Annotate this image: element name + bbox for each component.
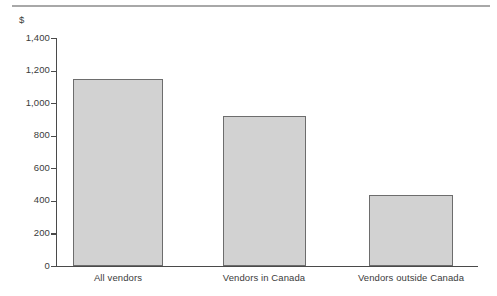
x-axis-line — [56, 266, 478, 267]
x-category-label: Vendors outside Canada — [311, 272, 497, 283]
y-axis-line — [56, 38, 57, 267]
bar — [73, 79, 163, 266]
y-tick-label: 1,200 — [26, 64, 50, 75]
bar — [369, 195, 453, 266]
y-tick-label: 0 — [45, 260, 50, 271]
y-tick-label: 1,000 — [26, 97, 50, 108]
y-tick-label: 200 — [34, 227, 50, 238]
bar-chart-figure: $ 1,4001,2001,0008006004002000 All vendo… — [0, 0, 497, 296]
bar — [223, 116, 306, 266]
y-tick-mark — [51, 38, 56, 39]
y-tick-mark — [51, 233, 56, 234]
y-tick-mark — [51, 266, 56, 267]
y-tick-mark — [51, 136, 56, 137]
y-tick-mark — [51, 168, 56, 169]
y-tick-label: 400 — [34, 194, 50, 205]
y-tick-label: 800 — [34, 129, 50, 140]
y-tick-label: 1,400 — [26, 32, 50, 43]
y-axis-unit-label: $ — [19, 14, 24, 25]
y-tick-mark — [51, 71, 56, 72]
y-tick-label: 600 — [34, 162, 50, 173]
y-tick-mark — [51, 103, 56, 104]
y-tick-mark — [51, 201, 56, 202]
chart-page: $ 1,4001,2001,0008006004002000 All vendo… — [0, 0, 497, 296]
